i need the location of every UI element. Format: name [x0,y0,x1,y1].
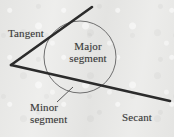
major-segment-label: Major segment [62,41,114,64]
secant-line [11,65,170,101]
secant-label: Secant [122,112,152,124]
major-segment-label-line1: Major [62,41,114,53]
minor-segment-label-line1: Minor [30,102,67,114]
tangent-label: Tangent [8,28,44,40]
major-segment-label-line2: segment [62,53,114,65]
minor-segment-label: Minor segment [30,102,67,125]
geometry-diagram: Tangent Major segment Minor segment Seca… [0,0,174,137]
minor-segment-label-line2: segment [30,114,67,126]
